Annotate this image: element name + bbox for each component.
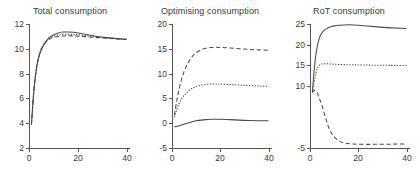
chart-panel-1: Total consumption2468101202040	[0, 0, 140, 181]
series-line-dashed	[174, 47, 268, 115]
chart-panel-3: RoT consumption-51015202502040	[280, 0, 418, 181]
series-line-solid	[31, 32, 126, 125]
series-line-dotted	[174, 84, 268, 117]
series-line-solid	[174, 119, 268, 126]
series-line-solid	[312, 25, 406, 92]
series-line-dashed	[31, 36, 126, 125]
figure-panel-group: Total consumption2468101202040Optimising…	[0, 0, 418, 181]
curve-layer	[0, 0, 140, 181]
series-line-dotted	[31, 34, 126, 124]
series-line-dotted	[312, 64, 406, 93]
curve-layer	[280, 0, 418, 181]
chart-panel-2: Optimising consumption-50510152002040	[140, 0, 280, 181]
series-line-dashed	[312, 90, 406, 144]
curve-layer	[140, 0, 280, 181]
